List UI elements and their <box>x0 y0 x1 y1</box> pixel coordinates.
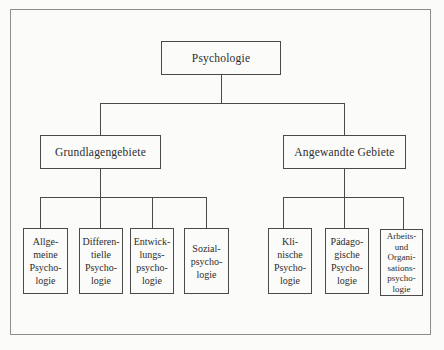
connector-right-branch-trunk <box>344 169 345 228</box>
connector-right-branch-down <box>344 103 345 135</box>
connector-leaf-allgemeine <box>40 197 41 228</box>
connector-left-branch-trunk <box>100 169 101 228</box>
node-psychologie-label: Psychologie <box>192 52 250 64</box>
node-sozialpsychologie-label: Sozial- psycho- logie <box>191 242 223 281</box>
connector-leaf-entwicklungs <box>152 197 153 228</box>
node-paedagogische-psychologie-label: Pädago- gische Psycho- logie <box>331 235 364 287</box>
node-grundlagengebiete: Grundlagengebiete <box>40 135 161 169</box>
node-entwicklungspsychologie: Entwick- lungs- psycho- logie <box>130 228 174 294</box>
node-allgemeine-psychologie: Allge- meine Psycho- logie <box>23 228 68 294</box>
connector-left-branch-down <box>100 103 101 135</box>
node-angewandte-gebiete: Angewandte Gebiete <box>283 135 406 169</box>
node-paedagogische-psychologie: Pädago- gische Psycho- logie <box>325 228 369 294</box>
node-arbeits-organisationspsychologie-label: Arbeits- und Organi- sations- psycho- lo… <box>387 231 417 294</box>
connector-leaf-klinische <box>283 197 284 228</box>
node-differentielle-psychologie-label: Differen- tielle Psycho- logie <box>82 235 119 287</box>
node-klinische-psychologie: Kli- nische Psycho- logie <box>268 228 312 294</box>
connector-leaf-arbeits <box>403 197 404 229</box>
connector-root-down <box>221 75 222 103</box>
node-angewandte-gebiete-label: Angewandte Gebiete <box>294 146 394 158</box>
connector-right-leaves-horizontal <box>283 197 404 198</box>
connector-level1-horizontal <box>100 103 345 104</box>
connector-left-leaves-horizontal <box>40 197 207 198</box>
node-differentielle-psychologie: Differen- tielle Psycho- logie <box>79 228 123 294</box>
node-klinische-psychologie-label: Kli- nische Psycho- logie <box>274 235 306 287</box>
node-allgemeine-psychologie-label: Allge- meine Psycho- logie <box>29 235 61 287</box>
psychology-tree-diagram: Psychologie Grundlagengebiete Angewandte… <box>0 0 444 350</box>
node-sozialpsychologie: Sozial- psycho- logie <box>184 228 229 294</box>
node-entwicklungspsychologie-label: Entwick- lungs- psycho- logie <box>134 235 171 287</box>
node-grundlagengebiete-label: Grundlagengebiete <box>55 146 146 158</box>
node-psychologie: Psychologie <box>161 41 281 75</box>
node-arbeits-organisationspsychologie: Arbeits- und Organi- sations- psycho- lo… <box>380 229 423 296</box>
connector-leaf-sozial <box>206 197 207 228</box>
